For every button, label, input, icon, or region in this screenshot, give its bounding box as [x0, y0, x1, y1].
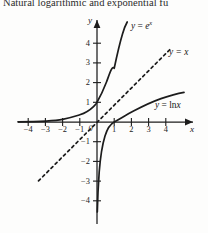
y-tick-label-3: 3 [78, 58, 90, 67]
plot-area: −4 −3 −2 −1 0 1 2 3 4 4 3 2 1 −1 −2 −3 −… [0, 14, 208, 233]
curve-label-identity: y = x [169, 47, 188, 57]
exp-label-power: x [149, 19, 152, 26]
y-tick-label--2: −2 [76, 157, 90, 166]
y-axis-arrowhead [94, 20, 101, 28]
y-tick-label-4: 4 [78, 39, 90, 48]
figure-caption: Natural logarithmic and exponential fu [3, 0, 208, 8]
curve-label-logarithm: y = lnx [155, 100, 181, 110]
y-tick-label-1: 1 [78, 98, 90, 107]
axes-group [18, 20, 193, 224]
figure-container: Natural logarithmic and exponential fu [0, 0, 208, 233]
x-tick-label-3: 3 [142, 125, 156, 134]
log-label-arg: x [176, 100, 180, 110]
y-axis-label: y [88, 15, 92, 25]
curve-label-exponential: y = ex [131, 21, 152, 31]
x-tick-label-2: 2 [124, 125, 138, 134]
x-axis-label: x [190, 124, 194, 134]
x-tick-label--4: −4 [20, 125, 36, 134]
y-tick-label--3: −3 [76, 177, 90, 186]
log-label-equals: = [159, 100, 169, 110]
origin-label: 0 [86, 124, 96, 133]
exp-label-equals: = [135, 21, 145, 31]
curve-identity [39, 48, 172, 181]
x-tick-label--2: −2 [55, 125, 71, 134]
x-tick-label-4: 4 [159, 125, 173, 134]
y-tick-label-2: 2 [78, 78, 90, 87]
x-tick-label--3: −3 [37, 125, 53, 134]
x-tick-label-1: 1 [107, 125, 121, 134]
curve-exponential [18, 22, 127, 122]
y-tick-label--1: −1 [76, 137, 90, 146]
y-tick-label--4: −4 [76, 196, 90, 205]
